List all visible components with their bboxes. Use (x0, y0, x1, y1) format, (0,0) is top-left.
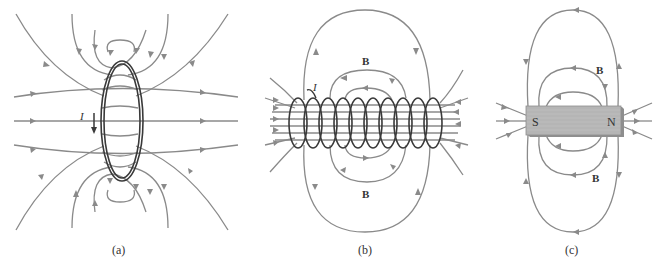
caption-c: (c) (565, 243, 578, 257)
pole-south: S (532, 115, 539, 129)
field-label-c-top: B (596, 64, 604, 76)
panel-c-bar-magnet: S N B B (c) (496, 7, 652, 257)
bar-magnet: S N (526, 106, 624, 137)
panel-a-current-loop: I (a) (14, 14, 238, 257)
panel-b-solenoid: I B B (b) (265, 10, 468, 257)
field-label-b-bottom: B (362, 188, 370, 200)
caption-b: (b) (358, 243, 372, 257)
field-label-b-top: B (362, 55, 370, 67)
field-label-c-bottom: B (592, 172, 600, 184)
pole-north: N (607, 115, 616, 129)
magnetic-field-diagram: I (a) (0, 0, 656, 265)
current-label-a: I (79, 110, 85, 122)
caption-a: (a) (112, 243, 125, 257)
current-label-b: I (312, 81, 318, 93)
